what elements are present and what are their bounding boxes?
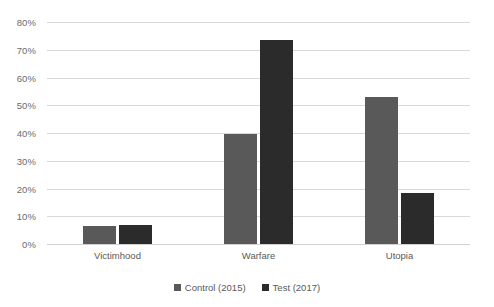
y-axis-tick-label: 50% <box>17 100 36 111</box>
legend-item[interactable]: Test (2017) <box>262 282 321 293</box>
y-axis-tick-label: 20% <box>17 183 36 194</box>
y-axis-tick-label: 60% <box>17 72 36 83</box>
bar-chart: 0%10%20%30%40%50%60%70%80% VictimhoodWar… <box>0 0 494 307</box>
x-axis-tick-label: Victimhood <box>94 250 141 261</box>
y-axis-tick-label: 0% <box>22 239 36 250</box>
x-axis: VictimhoodWarfareUtopia <box>47 250 470 266</box>
bar <box>119 225 152 244</box>
chart-legend: Control (2015)Test (2017) <box>0 282 494 293</box>
legend-swatch-icon <box>174 284 181 291</box>
y-axis-tick-label: 10% <box>17 211 36 222</box>
y-axis-tick-label: 40% <box>17 128 36 139</box>
legend-label: Control (2015) <box>185 282 246 293</box>
bar <box>401 193 434 244</box>
y-axis-tick-label: 80% <box>17 17 36 28</box>
legend-swatch-icon <box>262 284 269 291</box>
gridline <box>47 244 470 245</box>
bars-layer <box>47 22 470 244</box>
y-axis-tick-label: 30% <box>17 155 36 166</box>
y-axis: 0%10%20%30%40%50%60%70%80% <box>0 22 42 244</box>
bar <box>260 40 293 244</box>
y-axis-tick-label: 70% <box>17 44 36 55</box>
legend-label: Test (2017) <box>273 282 321 293</box>
bar <box>365 97 398 244</box>
x-axis-tick-label: Utopia <box>386 250 413 261</box>
x-axis-tick-label: Warfare <box>242 250 275 261</box>
legend-item[interactable]: Control (2015) <box>174 282 246 293</box>
bar <box>224 134 257 244</box>
bar <box>83 226 116 244</box>
